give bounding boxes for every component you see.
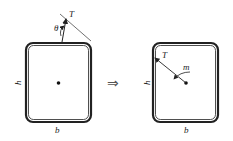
force-label-right: T — [162, 50, 168, 60]
force-label-left: T — [69, 9, 75, 19]
height-label-right: h — [142, 80, 152, 85]
height-label-left: h — [13, 80, 23, 85]
moment-label: m — [183, 62, 190, 72]
width-label-left: b — [55, 125, 60, 135]
left-cross-section — [26, 43, 91, 122]
force-arrow-t — [62, 19, 66, 42]
force-arrow-t-translated — [155, 58, 186, 83]
diagram-canvas: θ T h b ⇒ T m h b — [0, 0, 233, 141]
centroid-dot — [57, 81, 61, 85]
angle-label: θ — [54, 23, 59, 33]
equivalence-arrow: ⇒ — [107, 75, 119, 91]
width-label-right: b — [184, 125, 189, 135]
